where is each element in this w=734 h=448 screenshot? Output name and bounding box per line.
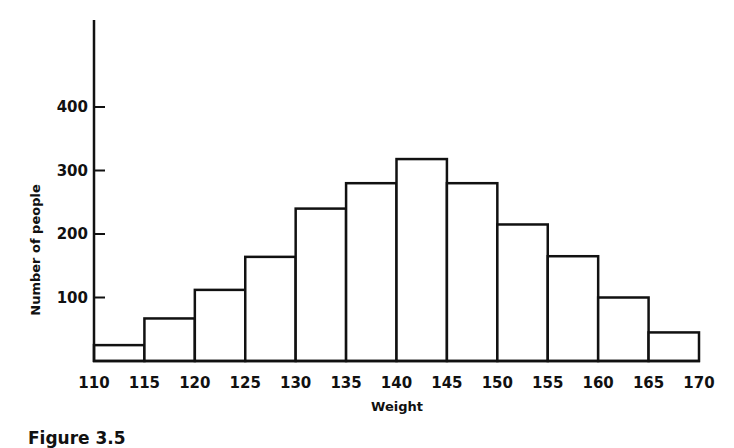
- x-tick-label: 135: [330, 374, 361, 392]
- x-axis-label: Weight: [371, 399, 423, 414]
- histogram-bar: [195, 290, 245, 361]
- x-tick-label: 155: [532, 374, 563, 392]
- y-tick-label: 200: [57, 225, 88, 243]
- x-tick-label: 110: [78, 374, 109, 392]
- x-tick-label: 120: [179, 374, 210, 392]
- histogram-bar: [497, 224, 547, 361]
- y-tick-label: 300: [57, 162, 88, 180]
- figure-caption: Figure 3.5: [28, 428, 126, 448]
- x-tick-label: 130: [280, 374, 311, 392]
- histogram-bar: [296, 209, 346, 361]
- histogram-bar: [397, 159, 447, 361]
- histogram-bar: [447, 183, 497, 361]
- y-tick-label: 400: [57, 98, 88, 116]
- x-tick-label: 170: [683, 374, 714, 392]
- x-tick-label: 115: [129, 374, 160, 392]
- x-tick-label: 145: [431, 374, 462, 392]
- x-ticks: 110115120125130135140145150155160165170: [78, 374, 714, 392]
- x-tick-label: 165: [633, 374, 664, 392]
- histogram-bar: [94, 345, 144, 361]
- y-ticks: 100200300400: [57, 98, 105, 307]
- y-axis-label: Number of people: [28, 184, 43, 316]
- bars-group: [94, 159, 699, 361]
- histogram-bar: [598, 298, 648, 362]
- histogram-bar: [346, 183, 396, 361]
- y-tick-label: 100: [57, 289, 88, 307]
- x-tick-label: 160: [583, 374, 614, 392]
- histogram-bar: [144, 318, 194, 361]
- x-tick-label: 150: [482, 374, 513, 392]
- histogram-bar: [245, 257, 295, 361]
- histogram-bar: [548, 256, 598, 361]
- x-tick-label: 140: [381, 374, 412, 392]
- histogram-bar: [649, 332, 699, 361]
- x-tick-label: 125: [230, 374, 261, 392]
